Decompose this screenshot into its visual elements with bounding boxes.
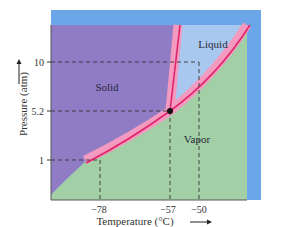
y-axis-arrowhead-icon: [17, 59, 22, 64]
solid-label: Solid: [95, 81, 119, 93]
triple-point-marker: [167, 108, 173, 114]
y-tick-10: 10: [34, 57, 44, 68]
x-axis-title: Temperature (°C): [96, 215, 174, 227]
y-tick-5-2: 5.2: [32, 106, 45, 117]
x-tick-minus-50: −50: [191, 204, 207, 215]
y-tick-1: 1: [39, 155, 44, 166]
x-axis-arrowhead-icon: [207, 220, 212, 225]
x-tick-minus-78: −78: [91, 204, 107, 215]
x-tick-minus-57: −57: [160, 204, 176, 215]
axis-ticks: [47, 62, 51, 160]
phase-diagram-chart: 10 5.2 1 −78 −57 −50 Solid Liquid Vapor …: [0, 0, 281, 227]
liquid-label: Liquid: [198, 38, 228, 50]
vapor-label: Vapor: [184, 133, 211, 145]
